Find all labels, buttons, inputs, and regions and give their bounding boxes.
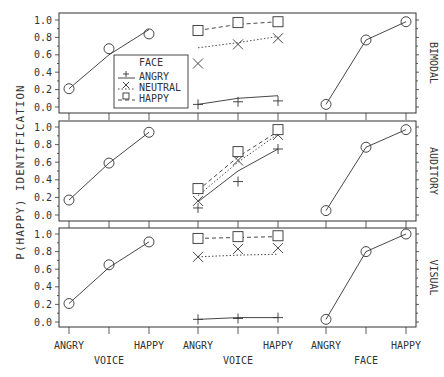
- voice-only-fit-line: [69, 242, 149, 304]
- x-category-label: HAPPY: [391, 340, 421, 351]
- y-tick-label: 1.0: [34, 122, 52, 133]
- square-marker-icon: [193, 233, 203, 243]
- plus-marker-icon: [273, 313, 283, 323]
- y-tick-label: 1.0: [34, 229, 52, 240]
- x-axis-group-label: VOICE: [223, 355, 253, 366]
- square-marker-icon: [273, 125, 283, 135]
- legend-label-neutral: NEUTRAL: [139, 82, 181, 93]
- x-category-label: HAPPY: [134, 340, 164, 351]
- y-axis-label: P(HAPPY) IDENTIFICATION: [14, 84, 27, 259]
- plus-marker-icon: [233, 313, 243, 323]
- legend-label-angry: ANGRY: [139, 71, 169, 82]
- panel-label-auditory: AUDITORY: [428, 147, 439, 195]
- x-marker-icon: [193, 59, 203, 69]
- x-category-label: ANGRY: [54, 340, 84, 351]
- y-tick-label: 1.0: [34, 15, 52, 26]
- x-marker-icon: [193, 252, 203, 262]
- y-tick-label: 0.8: [34, 32, 52, 43]
- plus-marker-icon: [233, 177, 243, 187]
- y-tick-label: 0.2: [34, 192, 52, 203]
- bimodal-fit-line-neutral: [198, 254, 278, 257]
- x-axis-group-label: VOICE: [94, 355, 124, 366]
- square-marker-icon: [233, 147, 243, 157]
- y-tick-label: 0.8: [34, 246, 52, 257]
- panel-auditory: 0.00.20.40.60.81.0AUDITORY: [34, 121, 439, 228]
- panel-visual: 0.00.20.40.60.81.0VISUAL: [34, 228, 439, 334]
- y-tick-label: 0.6: [34, 264, 52, 275]
- y-tick-label: 0.2: [34, 299, 52, 310]
- legend: FACEANGRYNEUTRALHAPPY: [114, 55, 188, 108]
- y-tick-label: 0.4: [34, 67, 52, 78]
- y-tick-label: 0.4: [34, 174, 52, 185]
- voice-only-fit-line: [69, 132, 149, 200]
- y-tick-label: 0.2: [34, 84, 52, 95]
- face-only-fit-line: [326, 22, 406, 105]
- x-category-label: ANGRY: [183, 340, 213, 351]
- face-only-fit-line: [326, 130, 406, 211]
- panel-label-bimodal: BIMODAL: [428, 42, 439, 84]
- square-marker-icon: [193, 184, 203, 194]
- x-marker-icon: [233, 39, 243, 49]
- square-marker-icon: [193, 25, 203, 35]
- panel-bimodal: 0.00.20.40.60.81.0BIMODAL: [34, 13, 439, 120]
- y-tick-label: 0.0: [34, 210, 52, 221]
- x-category-label: ANGRY: [311, 340, 341, 351]
- plus-marker-icon: [273, 144, 283, 154]
- x-category-label: HAPPY: [263, 340, 293, 351]
- circle-marker-icon: [144, 29, 154, 39]
- x-axis-group-label: FACE: [354, 355, 378, 366]
- y-tick-label: 0.6: [34, 157, 52, 168]
- square-marker-icon: [233, 18, 243, 28]
- x-marker-icon: [273, 33, 283, 43]
- square-marker-icon: [123, 93, 129, 99]
- square-marker-icon: [233, 232, 243, 242]
- plus-marker-icon: [273, 96, 283, 106]
- square-marker-icon: [273, 231, 283, 241]
- y-tick-label: 0.0: [34, 102, 52, 113]
- legend-title: FACE: [139, 57, 163, 68]
- x-marker-icon: [233, 244, 243, 254]
- y-tick-label: 0.0: [34, 317, 52, 328]
- y-tick-label: 0.8: [34, 139, 52, 150]
- x-marker-icon: [273, 243, 283, 253]
- panel-frame: [59, 228, 416, 327]
- bimodal-fit-line-neutral: [198, 37, 278, 48]
- plus-marker-icon: [193, 99, 203, 109]
- panel-label-visual: VISUAL: [428, 259, 439, 295]
- chart: 0.00.20.40.60.81.0BIMODAL0.00.20.40.60.8…: [0, 0, 444, 377]
- legend-label-happy: HAPPY: [139, 93, 169, 104]
- y-tick-label: 0.6: [34, 49, 52, 60]
- square-marker-icon: [273, 17, 283, 27]
- y-tick-label: 0.4: [34, 281, 52, 292]
- plus-marker-icon: [193, 314, 203, 324]
- circle-marker-icon: [104, 44, 114, 54]
